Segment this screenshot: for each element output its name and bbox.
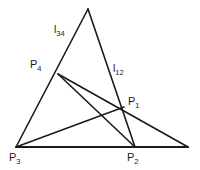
segment-group <box>16 9 188 147</box>
vertex-label-P1: P1 <box>128 96 140 110</box>
vertex-label-P3: P3 <box>9 152 21 166</box>
segment-right-edge-l12 <box>88 9 135 147</box>
segment-P3-to-P1-ext <box>16 107 124 147</box>
line-label-l12: l12 <box>113 63 124 77</box>
segment-left-edge <box>16 9 88 147</box>
geometry-diagram: P1 P2 P3 P4 l34 l12 <box>0 0 200 170</box>
line-label-l34: l34 <box>54 24 65 38</box>
diagram-canvas <box>0 0 200 170</box>
vertex-label-P2: P2 <box>127 152 139 166</box>
vertex-label-P4: P4 <box>30 59 42 73</box>
